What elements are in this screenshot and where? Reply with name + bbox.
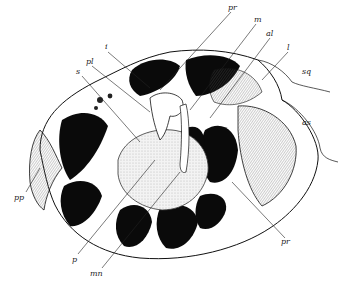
label-l: l (287, 44, 290, 52)
anatomical-figure (0, 0, 342, 290)
malleus-handle (180, 104, 189, 173)
label-s: s (76, 68, 80, 76)
label-as: as (302, 119, 311, 127)
label-mn: mn (90, 270, 103, 278)
label-pr-top: pr (228, 4, 237, 12)
label-i: i (105, 43, 108, 51)
label-p: p (72, 256, 77, 264)
label-pr-bottom: pr (281, 238, 290, 246)
label-pl: pl (86, 58, 94, 66)
label-m: m (254, 16, 262, 24)
label-sq: sq (302, 68, 311, 76)
label-pp: pp (14, 194, 24, 202)
label-al: al (266, 30, 273, 38)
